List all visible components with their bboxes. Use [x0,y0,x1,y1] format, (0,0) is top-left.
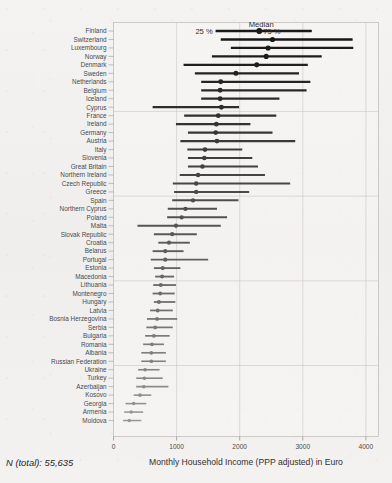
median-dot [160,275,164,279]
median-dot [218,88,223,93]
y-axis-country-label: Bosnia Herzegovina [49,315,107,323]
median-dot [143,368,147,372]
x-axis-tick-label: 1000 [169,443,184,450]
y-axis-country-label: Belgium [83,87,106,95]
median-dot [191,198,195,202]
median-dot [163,249,167,253]
x-axis-tick-label: 0 [112,443,116,450]
median-dot [158,292,162,296]
n-total-annotation: N (total): 55,635 [6,457,74,468]
y-axis-country-label: Belarus [85,247,107,254]
y-axis-country-label: Latvia [89,307,106,314]
median-dot [196,173,201,178]
median-dot [132,402,135,405]
y-axis-country-label: Albania [85,349,107,356]
y-axis-country-label: Portugal [83,256,107,264]
median-dot [219,105,224,110]
income-dot-plot-figure: FinlandSwitzerlandLuxembourgNorwayDenmar… [0,0,392,483]
median-dot [163,258,167,262]
median-dot [218,79,223,84]
median-dot [128,419,131,422]
median-dot [215,139,220,144]
x-axis-title: Monthly Household Income (PPP adjusted) … [149,457,343,467]
y-axis-country-label: Moldova [82,417,107,424]
y-axis-country-label: Romania [81,341,107,348]
median-dot [170,232,174,236]
y-axis-country-label: Montenegro [72,290,107,298]
y-axis-country-label: Malta [91,222,107,229]
median-dot [213,130,218,135]
median-dot [129,410,132,413]
median-dot [138,393,142,397]
y-axis-country-label: Turkey [87,374,107,382]
x-axis-tick-label: 2000 [232,443,247,450]
median-dot [214,122,219,127]
median-dot [159,283,163,287]
median-dot [233,71,238,76]
median-dot [152,334,156,338]
median-dot [167,241,171,245]
y-axis-country-label: Ukraine [84,366,106,373]
y-axis-country-label: Ireland [87,120,107,127]
y-axis-country-label: Northern Cyprus [60,205,107,213]
y-axis-country-label: Cyprus [86,104,106,112]
y-axis-country-label: Georgia [84,400,107,408]
y-axis-country-label: Greece [86,188,107,195]
y-axis-country-label: Slovenia [82,154,107,161]
y-axis-country-label: Italy [95,146,108,154]
median-dot [156,308,160,312]
y-axis-country-label: Poland [87,214,107,221]
plot-area [114,23,379,437]
y-axis-country-label: Northern Ireland [60,171,107,178]
y-axis-country-label: Great Britain [71,163,107,170]
y-axis-country-label: Kosovo [85,391,107,398]
y-axis-country-label: Spain [90,197,107,205]
median-dot [157,300,161,304]
median-dot [174,224,178,228]
y-axis-country-label: Luxembourg [71,44,107,52]
y-axis-country-label: Macedonia [75,273,107,280]
y-axis-country-label: Croatia [86,239,107,246]
median-dot [161,266,165,270]
median-dot [254,62,259,67]
y-axis-country-label: Sweden [83,70,107,77]
median-dot [183,207,187,211]
y-axis-country-label: Germany [80,129,107,137]
median-dot [150,342,154,346]
y-axis-country-label: Austria [87,137,107,144]
legend-median-dot [256,28,262,34]
y-axis-country-label: Estonia [85,264,107,271]
median-dot [142,385,146,389]
median-dot [200,164,205,169]
median-dot [150,351,154,355]
x-axis-tick-label: 3000 [295,443,310,450]
y-axis-country-label: Azerbaijan [76,383,107,391]
y-axis-country-label: Finland [86,27,107,34]
legend-label-p25: 25 % [195,27,213,36]
median-dot [266,45,271,50]
median-dot [270,37,275,42]
y-axis-country-label: Switzerland [73,36,106,43]
median-dot [143,376,147,380]
legend-label-median: Median [249,20,274,29]
chart-canvas: FinlandSwitzerlandLuxembourgNorwayDenmar… [0,0,392,483]
median-dot [194,181,198,185]
y-axis-country-label: Hungary [82,298,107,306]
y-axis-country-label: Armenia [83,408,107,415]
median-dot [153,325,157,329]
median-dot [179,215,183,219]
y-axis-country-label: Iceland [86,95,107,102]
y-axis-country-label: Serbia [88,324,107,331]
y-axis-country-label: Netherlands [72,78,106,85]
y-axis-country-label: Russian Federation [51,358,107,365]
y-axis-country-label: Denmark [81,61,108,68]
y-axis-country-label: Czech Republic [62,180,108,188]
y-axis-country-label: Slovak Republic [61,231,108,239]
median-dot [264,54,269,59]
median-dot [194,190,198,194]
y-axis-country-label: Lithuania [81,281,107,288]
y-axis-country-label: France [87,112,107,119]
median-dot [218,96,223,101]
median-dot [216,113,221,118]
x-axis-tick-label: 4000 [359,443,374,450]
